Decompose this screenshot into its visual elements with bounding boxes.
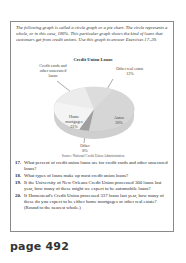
- exercise-item: 19. If the University of New Orleans Cre…: [15, 180, 171, 192]
- leader-line-credit-cards: [57, 81, 71, 92]
- exercise-text: If the University of New Orleans Credit …: [24, 180, 171, 192]
- exercise-number: 18.: [15, 173, 24, 179]
- exercise-text: What percent of credit union loans are f…: [24, 160, 171, 172]
- page-number-label: page 492: [10, 240, 69, 253]
- chart-title: Credit Union Loans: [11, 57, 175, 62]
- exercise-number: 17.: [15, 160, 24, 172]
- exercise-number: 19.: [15, 180, 24, 192]
- exercise-item: 17. What percent of credit union loans a…: [15, 160, 171, 172]
- exercise-list: 17. What percent of credit union loans a…: [15, 160, 171, 212]
- exercise-number: 20.: [15, 193, 24, 211]
- exercise-text: If Homestead's Credit Union processed 33…: [24, 193, 171, 211]
- exercise-textbox: The following graph is called a circle g…: [10, 21, 174, 232]
- exercise-item: 18. What types of loans make up most cre…: [15, 173, 171, 179]
- label-home-mortgages: Home mortgages 31%: [61, 114, 87, 129]
- pie-chart: [51, 79, 137, 143]
- exercise-text: What types of loans make up most credit …: [24, 173, 171, 179]
- label-other: Other 8%: [73, 143, 97, 153]
- label-other-real-estate: Other real estate 12%: [109, 66, 151, 76]
- exercise-item: 20. If Homestead's Credit Union processe…: [15, 193, 171, 211]
- chart-source: Source: National Credit Union Administra…: [11, 154, 175, 158]
- label-autos: Autos 20%: [107, 115, 131, 125]
- intro-paragraph: The following graph is called a circle g…: [16, 25, 170, 43]
- label-credit-cards: Credit cards and other unsecured loans: [33, 63, 73, 78]
